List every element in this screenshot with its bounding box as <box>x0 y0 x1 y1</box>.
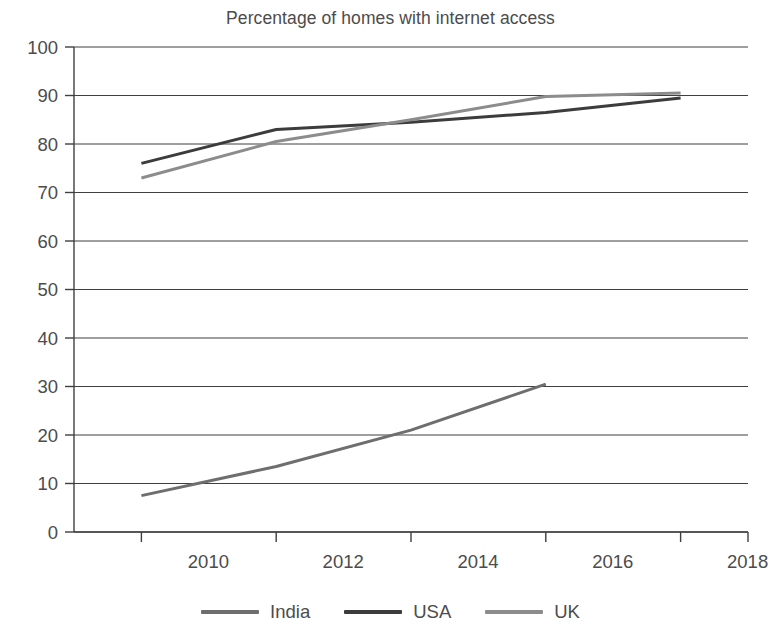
x-axis-tick-label: 2010 <box>188 551 229 572</box>
y-axis-tick-label: 100 <box>27 37 58 58</box>
x-axis-tick-label: 2016 <box>592 551 633 572</box>
y-axis-tick-label: 60 <box>37 231 58 252</box>
legend-swatch-icon <box>344 610 402 614</box>
y-axis-tick-label: 20 <box>37 425 58 446</box>
y-tick-marks-group <box>65 47 74 532</box>
legend-label: UK <box>554 603 580 622</box>
y-axis-tick-label: 30 <box>37 376 58 397</box>
legend-item-uk[interactable]: UK <box>485 603 580 622</box>
legend-item-india[interactable]: India <box>201 603 310 622</box>
legend-swatch-icon <box>201 610 259 614</box>
y-axis-tick-label: 80 <box>37 134 58 155</box>
legend-label: India <box>270 603 310 622</box>
series-line-india <box>141 384 545 496</box>
legend-item-usa[interactable]: USA <box>344 603 451 622</box>
y-axis-tick-label: 50 <box>37 279 58 300</box>
y-axis-tick-label: 0 <box>48 522 58 543</box>
series-line-usa <box>141 98 680 163</box>
y-axis-tick-label: 70 <box>37 182 58 203</box>
chart-container: Percentage of homes with internet access… <box>0 0 781 639</box>
chart-plot-area: 0102030405060708090100 20102012201420162… <box>0 0 781 639</box>
y-axis-labels-group: 0102030405060708090100 <box>27 37 58 543</box>
x-axis-labels-group: 20102012201420162018 <box>188 551 768 572</box>
x-axis-tick-label: 2018 <box>727 551 768 572</box>
y-axis-tick-label: 40 <box>37 328 58 349</box>
y-axis-tick-label: 90 <box>37 85 58 106</box>
x-axis-tick-label: 2012 <box>323 551 364 572</box>
x-axis-tick-label: 2014 <box>457 551 498 572</box>
legend-label: USA <box>413 603 451 622</box>
x-tick-marks-group <box>141 532 748 542</box>
chart-legend: IndiaUSAUK <box>0 603 781 622</box>
legend-swatch-icon <box>485 610 543 614</box>
y-axis-tick-label: 10 <box>37 473 58 494</box>
